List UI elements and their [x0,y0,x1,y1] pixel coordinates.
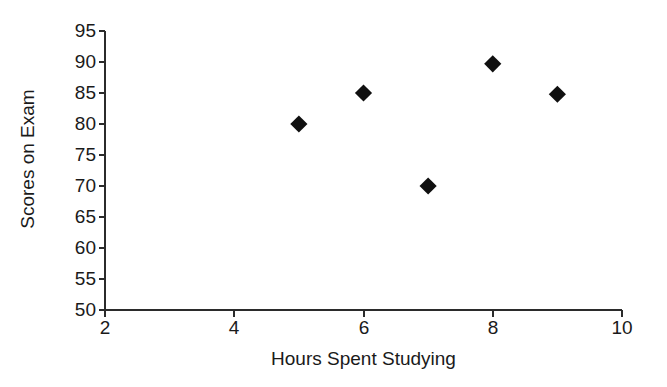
y-tick-label: 65 [52,207,96,226]
x-tick-label: 10 [611,317,632,338]
y-tick-label: 60 [52,238,96,257]
y-tick-label-wrap: 75 [52,155,96,156]
x-tick-label-wrap: 10 [592,318,652,338]
x-tick-label: 4 [229,317,240,338]
y-tick-label-wrap: 90 [52,62,96,63]
data-point-marker [484,55,501,72]
x-axis-title: Hours Spent Studying [105,348,622,370]
data-point-marker [290,115,307,132]
y-tick-label: 70 [52,176,96,195]
y-tick-label-wrap: 65 [52,217,96,218]
y-tick-label-wrap: 50 [52,310,96,311]
y-tick-label: 95 [52,21,96,40]
x-tick-label-wrap: 2 [75,318,135,338]
x-tick-label: 2 [100,317,111,338]
y-tick-label: 75 [52,145,96,164]
data-point-marker [549,86,566,103]
x-tick-marks [105,310,622,317]
y-tick-label-wrap: 55 [52,279,96,280]
y-tick-label-wrap: 60 [52,248,96,249]
y-axis-title: Scores on Exam [17,69,39,249]
y-tick-marks [99,31,105,310]
y-tick-label-wrap: 70 [52,186,96,187]
x-tick-label: 8 [488,317,499,338]
y-tick-label: 90 [52,52,96,71]
x-tick-label-wrap: 4 [204,318,264,338]
y-tick-label-wrap: 85 [52,93,96,94]
y-tick-label: 85 [52,83,96,102]
x-tick-label-wrap: 6 [334,318,394,338]
data-points [290,55,566,194]
y-tick-label: 55 [52,269,96,288]
y-tick-label: 80 [52,114,96,133]
x-tick-label: 6 [359,317,370,338]
y-tick-label-wrap: 80 [52,124,96,125]
data-point-marker [420,177,437,194]
scatter-chart: 95 90 85 80 75 70 65 60 55 50 2 4 6 8 10… [0,0,667,387]
y-tick-label-wrap: 95 [52,31,96,32]
data-point-marker [355,84,372,101]
y-tick-label: 50 [52,300,96,319]
x-tick-label-wrap: 8 [463,318,523,338]
